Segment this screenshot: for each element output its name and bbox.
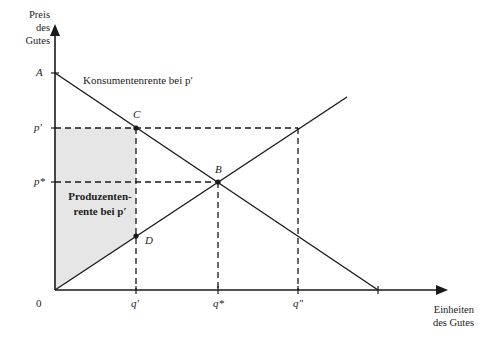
label-point-c: C xyxy=(133,108,140,121)
y-axis-label: Preis des Gutes xyxy=(18,8,50,47)
label-p-star: p* xyxy=(34,175,45,188)
origin-label: 0 xyxy=(36,297,42,310)
label-q-double: q″ xyxy=(293,297,303,310)
label-point-b: B xyxy=(215,163,222,176)
point-c xyxy=(133,125,138,130)
x-axis-arrow-icon xyxy=(436,285,448,295)
label-q-star: q* xyxy=(213,297,224,310)
point-b xyxy=(215,179,220,184)
consumer-surplus-label: Konsumentenrente bei p′ xyxy=(83,74,193,87)
producer-surplus-label: Produzenten- rente bei p′ xyxy=(62,189,138,219)
label-p-prime: p′ xyxy=(34,121,42,134)
diagram-canvas xyxy=(0,0,485,342)
label-q-prime: q′ xyxy=(131,297,139,310)
label-point-d: D xyxy=(145,234,153,247)
point-d xyxy=(133,233,138,238)
label-a: A xyxy=(36,66,43,79)
y-axis-arrow-icon xyxy=(50,24,60,36)
x-axis-label: Einheiten des Gutes xyxy=(404,303,474,329)
